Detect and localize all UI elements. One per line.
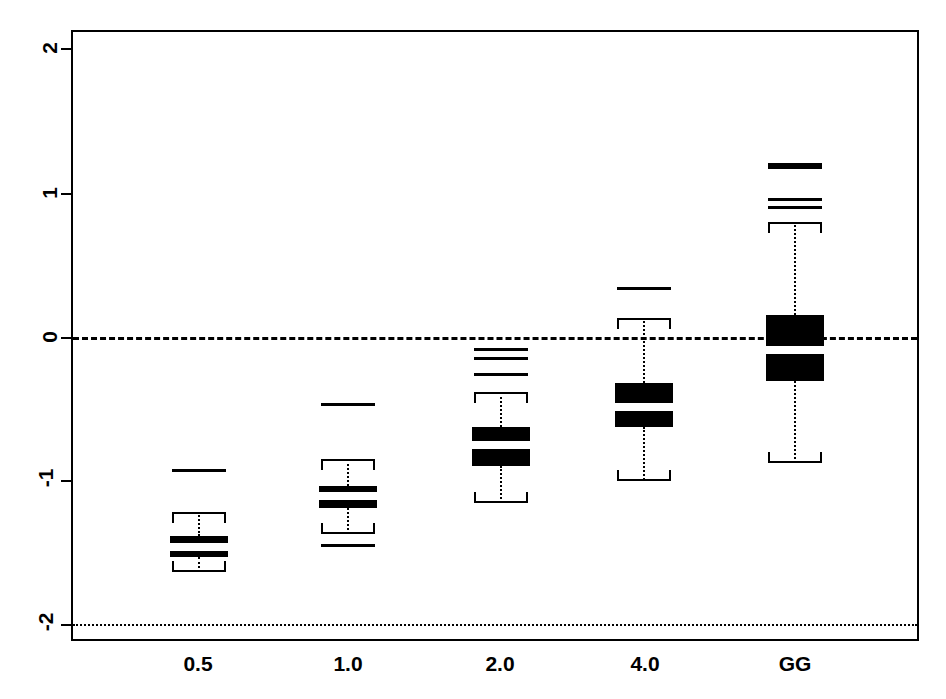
whisker-cap-lower (617, 470, 671, 481)
x-tick-label-4: GG (779, 652, 812, 676)
y-tick-mark-1 (61, 193, 72, 195)
boxplot-figure: 2 1 0 -1 -2 0.5 1.0 2.0 4.0 GG (0, 0, 946, 699)
y-tick-label-2: 2 (0, 36, 56, 60)
x-tick-label-0: 0.5 (183, 652, 212, 676)
y-tick-mark-neg1 (61, 480, 72, 482)
whisker-cap-lower (474, 492, 528, 503)
whisker-cap-upper (617, 318, 671, 329)
whisker-lower (794, 381, 796, 463)
median-line (170, 543, 228, 551)
outlier-marker (474, 373, 528, 376)
whisker-cap-lower (768, 452, 822, 463)
whisker-cap-upper (768, 222, 822, 233)
outlier-marker (617, 287, 671, 290)
median-line (472, 441, 530, 449)
y-tick-mark-2 (61, 48, 72, 50)
outlier-marker (321, 544, 375, 547)
outlier-marker (768, 206, 822, 209)
y-tick-label-0: 0 (0, 325, 56, 349)
x-tick-label-3: 4.0 (630, 652, 659, 676)
whisker-cap-upper (474, 392, 528, 403)
whisker-cap-upper (321, 459, 375, 470)
whisker-cap-lower (172, 561, 226, 572)
whisker-cap-lower (321, 523, 375, 534)
median-line (319, 492, 377, 500)
x-tick-label-1: 1.0 (333, 652, 362, 676)
whisker-upper (794, 222, 796, 315)
y-tick-mark-0 (61, 337, 72, 339)
outlier-marker (768, 198, 822, 201)
lower-reference-line (73, 624, 917, 626)
y-tick-mark-neg2 (61, 624, 72, 626)
median-line (766, 346, 824, 354)
outlier-marker (474, 357, 528, 360)
outlier-marker (321, 403, 375, 406)
x-tick-label-2: 2.0 (485, 652, 514, 676)
y-tick-label-neg2: -2 (0, 610, 56, 634)
y-tick-label-neg1: -1 (0, 466, 56, 490)
outlier-marker (172, 469, 226, 472)
outlier-marker (768, 163, 822, 169)
median-line (615, 403, 673, 411)
outlier-marker (474, 348, 528, 351)
y-tick-label-1: 1 (0, 181, 56, 205)
whisker-cap-upper (172, 512, 226, 523)
